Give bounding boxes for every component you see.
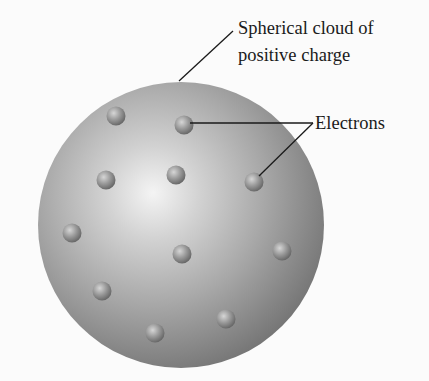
electron [167,166,186,185]
electron [175,116,194,135]
electron [146,324,165,343]
electron [245,173,264,192]
cloud-label-line2: positive charge [238,45,350,65]
electrons-label: Electrons [315,113,385,133]
electron [273,242,292,261]
atom-model-diagram: Spherical cloud of positive charge Elect… [0,0,429,381]
electron [107,107,126,126]
electron [217,310,236,329]
electron [63,224,82,243]
cloud-label-line1: Spherical cloud of [238,18,374,38]
electron [97,171,116,190]
electron [173,245,192,264]
electron [93,282,112,301]
